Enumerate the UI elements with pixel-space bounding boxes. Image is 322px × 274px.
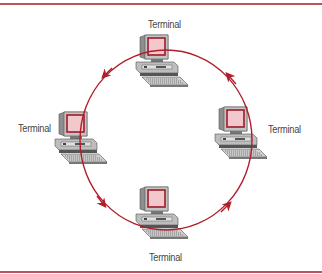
terminal-left-label: Terminal [18, 122, 51, 134]
ring-network-diagram [0, 0, 322, 274]
terminal-right-label: Terminal [268, 123, 301, 135]
terminal-top-label: Terminal [148, 18, 181, 30]
arrow-top-left-icon [104, 68, 112, 76]
terminal-right-computer-icon [215, 107, 267, 159]
terminal-top-computer-icon [136, 35, 188, 87]
terminal-bottom-label: Terminal [149, 251, 182, 263]
terminal-bottom-computer-icon [136, 187, 188, 239]
